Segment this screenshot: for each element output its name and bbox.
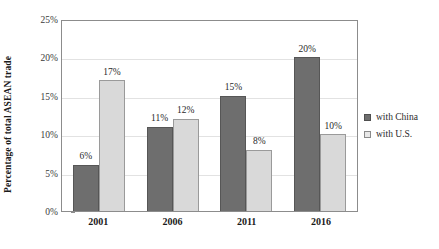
bar-wrap: 17% xyxy=(99,21,125,211)
bar[interactable] xyxy=(320,134,346,211)
bar-value-label: 11% xyxy=(151,114,168,124)
y-axis-tick-label: 25% xyxy=(18,15,58,25)
x-axis-tick-label: 2011 xyxy=(210,216,284,227)
bar-value-label: 15% xyxy=(225,83,242,93)
legend-label: with U.S. xyxy=(376,129,412,139)
legend-swatch-icon xyxy=(364,114,371,121)
legend-label: with China xyxy=(376,112,418,122)
y-axis-title: Percentage of total ASEAN trade xyxy=(0,0,16,249)
bar-wrap: 10% xyxy=(320,21,346,211)
x-axis-tick-label: 2016 xyxy=(284,216,358,227)
bar-value-label: 10% xyxy=(324,122,341,132)
bar-value-label: 12% xyxy=(177,106,194,116)
bar-pair: 11%12% xyxy=(147,21,199,211)
bar-group: 20%10% xyxy=(283,21,357,211)
bar-pair: 20%10% xyxy=(294,21,346,211)
bar-wrap: 15% xyxy=(220,21,246,211)
y-axis-tick-label: 0% xyxy=(18,207,58,217)
bar-value-label: 8% xyxy=(253,137,266,147)
bar-group: 6%17% xyxy=(62,21,136,211)
x-axis-tick-labels: 2001200620112016 xyxy=(61,216,358,227)
bars-layer: 6%17%11%12%15%8%20%10% xyxy=(62,21,357,211)
bar[interactable] xyxy=(73,165,99,211)
chart-legend: with Chinawith U.S. xyxy=(364,112,418,139)
y-axis-tick-label: 10% xyxy=(18,130,58,140)
bar-wrap: 11% xyxy=(147,21,173,211)
legend-swatch-icon xyxy=(364,131,371,138)
x-axis-tick-label: 2001 xyxy=(61,216,135,227)
legend-item[interactable]: with U.S. xyxy=(364,129,418,139)
bar-group: 11%12% xyxy=(136,21,210,211)
bar-value-label: 20% xyxy=(298,45,315,55)
plot-area: 6%17%11%12%15%8%20%10% xyxy=(61,20,358,212)
bar-wrap: 6% xyxy=(73,21,99,211)
y-axis-tick-mark xyxy=(71,212,75,213)
bar[interactable] xyxy=(147,127,173,211)
bar-value-label: 6% xyxy=(80,152,93,162)
bar[interactable] xyxy=(294,57,320,211)
legend-item[interactable]: with China xyxy=(364,112,418,122)
bar-wrap: 20% xyxy=(294,21,320,211)
y-axis-tick-labels: 0%5%10%15%20%25% xyxy=(16,20,58,212)
y-axis-tick-label: 15% xyxy=(18,92,58,102)
bar[interactable] xyxy=(173,119,199,211)
y-axis-tick-label: 5% xyxy=(18,169,58,179)
bar-group: 15%8% xyxy=(210,21,284,211)
bar[interactable] xyxy=(220,96,246,211)
bar-pair: 6%17% xyxy=(73,21,125,211)
bar-chart: Percentage of total ASEAN trade 0%5%10%1… xyxy=(0,0,439,249)
x-axis-tick-label: 2006 xyxy=(135,216,209,227)
bar-wrap: 8% xyxy=(246,21,272,211)
bar[interactable] xyxy=(99,80,125,211)
bar-wrap: 12% xyxy=(173,21,199,211)
bar-value-label: 17% xyxy=(103,68,120,78)
bar-pair: 15%8% xyxy=(220,21,272,211)
y-axis-tick-label: 20% xyxy=(18,53,58,63)
bar[interactable] xyxy=(246,150,272,211)
